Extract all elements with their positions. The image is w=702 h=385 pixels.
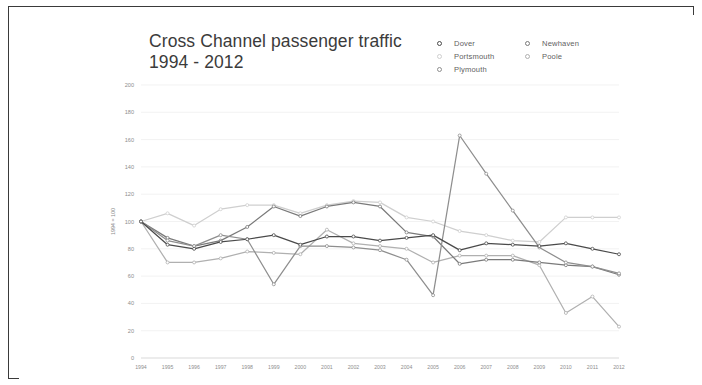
series-point-newhaven bbox=[272, 205, 275, 208]
x-axis-tick-label: 2005 bbox=[427, 364, 439, 370]
series-point-plymouth bbox=[405, 258, 408, 261]
y-axis-tick-label: 60 bbox=[128, 273, 134, 279]
series-point-poole bbox=[379, 245, 382, 248]
series-point-poole bbox=[405, 247, 408, 250]
series-point-dover bbox=[458, 249, 461, 252]
series-point-portsmouth bbox=[511, 239, 514, 242]
series-point-newhaven bbox=[511, 258, 514, 261]
series-point-poole bbox=[246, 250, 249, 253]
x-axis-tick-label: 2004 bbox=[401, 364, 413, 370]
x-axis-group: 1994199519961997199819992000200120022003… bbox=[135, 364, 625, 370]
slide-canvas: Cross Channel passenger traffic 1994 - 2… bbox=[19, 15, 701, 384]
y-axis-tick-label: 140 bbox=[125, 164, 134, 170]
x-axis-tick-label: 1999 bbox=[268, 364, 280, 370]
x-axis-tick-label: 2012 bbox=[613, 364, 625, 370]
series-point-newhaven bbox=[325, 205, 328, 208]
series-point-newhaven bbox=[379, 205, 382, 208]
series-point-dover bbox=[272, 234, 275, 237]
series-point-dover bbox=[246, 238, 249, 241]
chart-plot-area: 020406080100120140160180200 199419951996… bbox=[19, 15, 701, 384]
y-axis-tick-label: 200 bbox=[125, 82, 134, 88]
series-point-portsmouth bbox=[485, 234, 488, 237]
series-point-newhaven bbox=[299, 215, 302, 218]
series-point-dover bbox=[166, 243, 169, 246]
series-point-plymouth bbox=[591, 265, 594, 268]
series-point-dover bbox=[219, 240, 222, 243]
x-axis-tick-label: 2006 bbox=[454, 364, 466, 370]
series-point-poole bbox=[272, 251, 275, 254]
series-point-portsmouth bbox=[458, 230, 461, 233]
y-axis-tick-label: 100 bbox=[125, 219, 134, 225]
series-point-poole bbox=[432, 261, 435, 264]
x-axis-tick-label: 2009 bbox=[534, 364, 546, 370]
series-point-portsmouth bbox=[405, 216, 408, 219]
line-chart-svg: 020406080100120140160180200 199419951996… bbox=[19, 15, 701, 384]
series-point-plymouth bbox=[618, 272, 621, 275]
series-point-newhaven bbox=[538, 261, 541, 264]
series-point-newhaven bbox=[405, 231, 408, 234]
series-point-poole bbox=[325, 228, 328, 231]
y-axis-title: 1994 = 100 bbox=[110, 208, 116, 235]
y-axis-tick-label: 40 bbox=[128, 300, 134, 306]
series-point-plymouth bbox=[272, 283, 275, 286]
series-point-dover bbox=[193, 247, 196, 250]
y-axis-tick-label: 120 bbox=[125, 191, 134, 197]
series-point-portsmouth bbox=[166, 212, 169, 215]
series-point-dover bbox=[538, 245, 541, 248]
gridlines-group bbox=[141, 85, 619, 358]
series-point-plymouth bbox=[511, 209, 514, 212]
series-point-plymouth bbox=[325, 245, 328, 248]
series-point-poole bbox=[193, 261, 196, 264]
x-axis-tick-label: 1995 bbox=[162, 364, 174, 370]
series-group bbox=[140, 134, 621, 328]
x-axis-tick-label: 2010 bbox=[560, 364, 572, 370]
series-point-plymouth bbox=[485, 172, 488, 175]
series-point-portsmouth bbox=[193, 224, 196, 227]
series-point-portsmouth bbox=[564, 216, 567, 219]
photo-frame: Cross Channel passenger traffic 1994 - 2… bbox=[8, 6, 694, 379]
series-point-poole bbox=[511, 254, 514, 257]
x-axis-tick-label: 2008 bbox=[507, 364, 519, 370]
series-point-dover bbox=[485, 242, 488, 245]
series-point-portsmouth bbox=[618, 216, 621, 219]
series-point-dover bbox=[432, 234, 435, 237]
series-point-plymouth bbox=[564, 261, 567, 264]
series-point-poole bbox=[352, 242, 355, 245]
y-axis-group: 020406080100120140160180200 bbox=[125, 82, 134, 361]
series-point-portsmouth bbox=[219, 208, 222, 211]
y-axis-title-group: 1994 = 100 bbox=[110, 208, 116, 235]
series-point-poole bbox=[299, 253, 302, 256]
series-point-poole bbox=[166, 261, 169, 264]
series-point-poole bbox=[564, 311, 567, 314]
series-point-portsmouth bbox=[538, 240, 541, 243]
series-point-dover bbox=[352, 235, 355, 238]
series-point-dover bbox=[325, 235, 328, 238]
x-axis-tick-label: 1994 bbox=[135, 364, 147, 370]
series-point-poole bbox=[485, 254, 488, 257]
series-point-newhaven bbox=[485, 258, 488, 261]
y-axis-tick-label: 20 bbox=[128, 328, 134, 334]
series-point-portsmouth bbox=[432, 220, 435, 223]
series-point-dover bbox=[591, 247, 594, 250]
series-point-poole bbox=[458, 254, 461, 257]
y-axis-tick-label: 180 bbox=[125, 109, 134, 115]
y-axis-tick-label: 160 bbox=[125, 137, 134, 143]
series-point-dover bbox=[140, 220, 143, 223]
series-line-poole bbox=[141, 222, 619, 327]
series-point-dover bbox=[564, 242, 567, 245]
x-axis-tick-label: 2011 bbox=[587, 364, 598, 370]
series-point-dover bbox=[299, 243, 302, 246]
series-point-portsmouth bbox=[246, 204, 249, 207]
series-point-newhaven bbox=[352, 201, 355, 204]
screenshot-page: Cross Channel passenger traffic 1994 - 2… bbox=[0, 0, 702, 385]
series-point-plymouth bbox=[379, 249, 382, 252]
series-point-dover bbox=[511, 243, 514, 246]
series-line-plymouth bbox=[141, 136, 619, 296]
series-point-plymouth bbox=[432, 294, 435, 297]
series-point-dover bbox=[618, 253, 621, 256]
x-axis-tick-label: 2002 bbox=[348, 364, 360, 370]
y-axis-tick-label: 0 bbox=[131, 355, 134, 361]
x-axis-tick-label: 2003 bbox=[374, 364, 386, 370]
series-point-plymouth bbox=[352, 246, 355, 249]
x-axis-tick-label: 1998 bbox=[241, 364, 253, 370]
